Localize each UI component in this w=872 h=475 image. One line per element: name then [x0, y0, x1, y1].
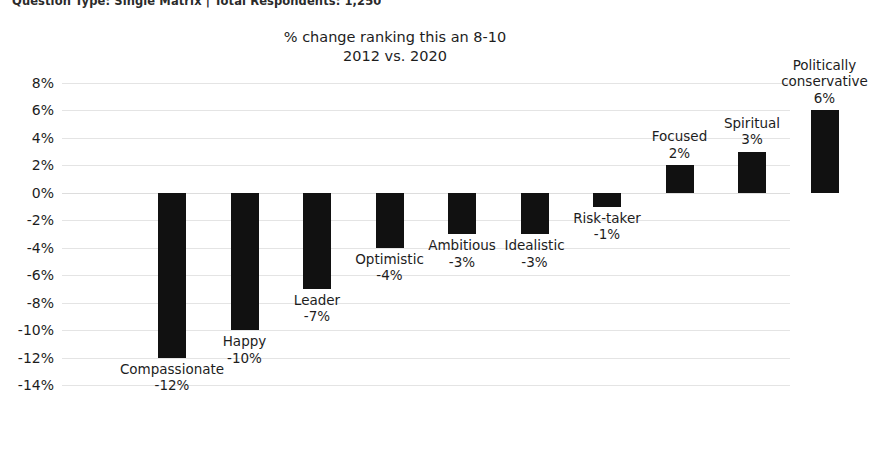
y-axis-tick-label: -8% — [0, 295, 54, 311]
bar-value-label: 3% — [724, 131, 780, 148]
bar[interactable] — [303, 193, 331, 289]
y-axis-tick-label: 4% — [0, 130, 54, 146]
bar-annotation: Idealistic-3% — [504, 237, 564, 270]
y-axis-tick-label: -14% — [0, 377, 54, 393]
bar-annotation: Compassionate-12% — [120, 361, 224, 394]
bar-category-label: Focused — [652, 128, 707, 145]
y-axis-tick-label: -12% — [0, 350, 54, 366]
y-axis-tick-label: 2% — [0, 157, 54, 173]
bar[interactable] — [811, 110, 839, 192]
bar[interactable] — [448, 193, 476, 234]
bar-category-label: Compassionate — [120, 361, 224, 378]
bar-category-label: Optimistic — [355, 251, 424, 268]
y-axis-tick-label: 0% — [0, 185, 54, 201]
y-axis-tick-label: -2% — [0, 212, 54, 228]
gridline — [62, 358, 790, 359]
y-axis-tick-label: -6% — [0, 267, 54, 283]
bar-annotation: Politically conservative6% — [771, 57, 872, 107]
chart-title-line1: % change ranking this an 8-10 — [0, 28, 790, 47]
bar-annotation: Optimistic-4% — [355, 251, 424, 284]
bar-value-label: -1% — [573, 226, 641, 243]
question-meta-text: Question Type: Single Matrix | Total Res… — [12, 0, 381, 8]
bar-value-label: 2% — [652, 145, 707, 162]
bar-category-label: Risk-taker — [573, 210, 641, 227]
bar[interactable] — [231, 193, 259, 330]
bar[interactable] — [521, 193, 549, 234]
bar-category-label: Spiritual — [724, 115, 780, 132]
bar-annotation: Happy-10% — [223, 333, 267, 366]
y-axis-tick-label: -10% — [0, 322, 54, 338]
bar-value-label: -10% — [223, 350, 267, 367]
bar[interactable] — [376, 193, 404, 248]
bar-annotation: Leader-7% — [294, 292, 340, 325]
bar-value-label: -3% — [428, 254, 496, 271]
bar-value-label: -7% — [294, 308, 340, 325]
bar-category-label: Ambitious — [428, 237, 496, 254]
bar-category-label: Happy — [223, 333, 267, 350]
bar-value-label: -4% — [355, 267, 424, 284]
bar[interactable] — [738, 152, 766, 193]
gridline — [62, 83, 790, 84]
bar-category-label: Idealistic — [504, 237, 564, 254]
question-meta: Question Type: Single Matrix | Total Res… — [12, 0, 381, 8]
bar-category-label: Leader — [294, 292, 340, 309]
bar[interactable] — [593, 193, 621, 207]
bar-category-label: Politically conservative — [771, 57, 872, 90]
bar[interactable] — [666, 165, 694, 192]
chart-title-line2: 2012 vs. 2020 — [0, 47, 790, 66]
y-axis-tick-label: -4% — [0, 240, 54, 256]
bar-annotation: Spiritual3% — [724, 115, 780, 148]
bar-value-label: -3% — [504, 254, 564, 271]
bar-annotation: Ambitious-3% — [428, 237, 496, 270]
bar-annotation: Risk-taker-1% — [573, 210, 641, 243]
bar-annotation: Focused2% — [652, 128, 707, 161]
gridline — [62, 110, 790, 111]
chart-title: % change ranking this an 8-10 2012 vs. 2… — [0, 28, 790, 65]
y-axis-tick-label: 8% — [0, 75, 54, 91]
bar-value-label: 6% — [771, 90, 872, 107]
bar[interactable] — [158, 193, 186, 358]
y-axis-tick-label: 6% — [0, 102, 54, 118]
bar-value-label: -12% — [120, 377, 224, 394]
